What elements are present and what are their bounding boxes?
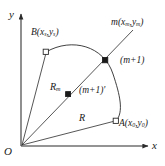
label-r-m: Rm [50, 82, 61, 93]
marker-point-a [113, 118, 118, 123]
label-r: R [79, 113, 85, 123]
marker-point-b [43, 49, 48, 54]
label-r-m-sub: m [56, 85, 60, 92]
ray-o-to-b [22, 53, 46, 145]
x-axis-label: x [152, 140, 157, 151]
label-m-plus-1-prime: (m+1)' [79, 86, 105, 96]
label-m-plus-1: (m+1) [120, 56, 144, 66]
marker-point-rm [66, 92, 71, 97]
point-b-label: B(xs,ys) [31, 28, 59, 38]
ray-o-to-m [22, 30, 133, 145]
geometry-diagram: y x O B(xs,ys) m(xm,ym) (m+1) (m+1)' Rm … [0, 0, 165, 166]
point-m-close-paren: ) [140, 17, 143, 27]
marker-point-m-plus-1 [102, 57, 107, 62]
ray-o-to-a [22, 121, 115, 145]
point-m-name: m [111, 17, 118, 27]
point-b-close-paren: ) [55, 27, 58, 37]
origin-label: O [4, 146, 12, 157]
point-a-label: A(x0,y0) [119, 119, 148, 129]
point-m-label: m(xm,ym) [111, 18, 144, 28]
point-a-close-paren: ) [145, 118, 148, 128]
y-axis-label: y [9, 9, 14, 20]
